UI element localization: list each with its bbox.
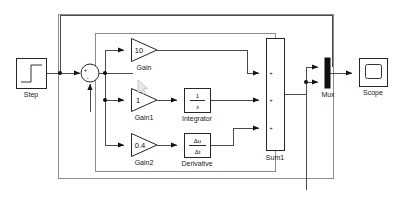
wire-feedback-top [60,15,332,67]
block-gain[interactable]: 10 Gain [132,39,158,72]
derivative-denominator: Δt [195,149,201,155]
block-sum[interactable]: + - [81,64,99,82]
block-sum1-label: Sum1 [266,154,284,161]
derivative-numerator: Δu [194,138,201,144]
block-gain-label: Gain [137,64,152,71]
block-integrator-label: Integrator [182,115,213,123]
block-step-label: Step [24,91,39,99]
junction-output-split [304,80,308,84]
junction-step-split [58,71,62,75]
block-scope[interactable]: Scope [360,59,388,98]
junction-error-mux [103,98,107,102]
sum1-sign-1: + [269,70,273,76]
block-integrator[interactable]: 1 s Integrator [182,89,213,124]
block-gain1-label: Gain1 [135,114,154,121]
scope-screen-icon [366,65,382,79]
block-mux-label: Mux [321,91,335,98]
sum-minus-sign: - [87,75,89,81]
block-derivative[interactable]: Δu Δt Derivative [181,134,212,168]
junction-error-split [103,71,107,75]
block-derivative-label: Derivative [181,160,212,167]
block-gain1-value: 1 [136,96,140,105]
wire-sum1-to-mux1 [284,67,318,94]
block-gain2-value: 0.4 [135,141,145,150]
block-sum1[interactable]: + + + Sum1 [266,39,285,162]
sum1-sign-2: + [269,97,273,103]
block-gain-value: 10 [135,46,143,55]
block-gain2[interactable]: 0.4 Gain2 [132,134,158,167]
wire-gain-to-sum1 [157,50,259,73]
wire-derivative-to-sum1 [210,128,259,145]
block-step[interactable]: Step [17,59,47,100]
block-scope-label: Scope [363,89,383,97]
integrator-denominator: s [196,103,199,111]
sum-plus-sign: + [84,67,88,73]
diagram-canvas[interactable]: Step + - 10 Gain 1 Gain1 0.4 Gain2 [0,0,401,201]
block-gain2-label: Gain2 [135,159,154,166]
sum1-sign-3: + [269,125,273,131]
mouse-pointer-icon [138,80,148,94]
block-diagram-svg[interactable]: Step + - 10 Gain 1 Gain1 0.4 Gain2 [0,0,401,201]
